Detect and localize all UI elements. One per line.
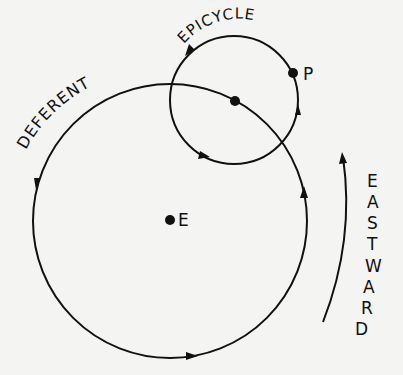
svg-text:A: A (363, 277, 376, 297)
epicycle-arrow-right-icon (295, 104, 301, 115)
svg-text:S: S (367, 213, 379, 233)
epicycle-diagram: EPICYCLE DEFERENT P E E A S T W A R D (0, 0, 403, 375)
svg-text:A: A (367, 192, 380, 212)
svg-text:E: E (367, 171, 379, 191)
planet-dot (288, 68, 298, 78)
deferent-arrow-right-icon (300, 186, 308, 198)
epicycle-label: EPICYCLE (174, 5, 257, 47)
svg-text:D: D (355, 319, 369, 339)
epicycle-center-dot (230, 96, 240, 106)
planet-label: P (303, 64, 314, 84)
eastward-arrow-icon (339, 152, 347, 164)
earth-dot (165, 215, 175, 225)
deferent-arrow-bottom-icon (186, 352, 198, 360)
earth-label: E (178, 210, 190, 230)
deferent-label: DEFERENT (13, 73, 93, 152)
svg-text:W: W (365, 256, 383, 276)
svg-text:T: T (366, 234, 378, 254)
eastward-arc (323, 157, 346, 322)
svg-text:R: R (361, 298, 374, 318)
eastward-label: E A S T W A R D (355, 171, 383, 339)
